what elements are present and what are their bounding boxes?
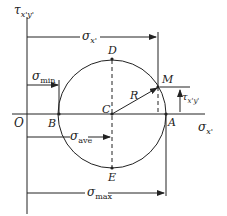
svg-text:τx'y': τx'y' [14,3,34,19]
svg-text:τx'y': τx'y' [182,91,199,105]
svg-text:M: M [161,73,174,86]
svg-text:D: D [107,44,117,57]
svg-text:E: E [107,171,116,184]
svg-text:O: O [14,116,24,130]
svg-text:σx': σx' [82,29,97,45]
svg-text:σave: σave [70,129,92,145]
svg-text:σx': σx' [198,120,213,136]
svg-text:σmax: σmax [87,185,113,201]
svg-text:R: R [129,89,138,102]
svg-text:B: B [47,117,56,130]
svg-text:A: A [167,116,176,129]
svg-text:C: C [102,103,111,116]
svg-text:σmin: σmin [32,69,56,85]
mohr-circle-diagram: τx'y' σx' O B C D E A M R σx' σmin σave … [0,0,227,216]
